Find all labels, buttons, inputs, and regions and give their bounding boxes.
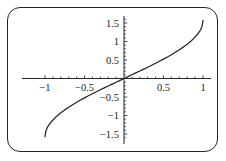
y-tick-label: −1 [108,110,119,121]
y-tick-label: 1.5 [106,18,119,29]
x-tick-label: 0.5 [157,82,170,93]
y-tick-label: −0.5 [100,92,119,103]
x-tick-label: 1 [200,82,205,93]
x-tick-label: −1 [39,82,50,93]
y-tick-label: −1.5 [100,129,119,140]
y-tick-label: 1 [114,36,119,47]
y-tick-label: 0.5 [106,55,119,66]
x-axis-tick-labels: −1−0.50.51 [39,82,205,93]
arcsin-plot: −1−0.50.51 −1.5−1−0.50.511.5 [0,0,226,161]
axes-group [22,16,211,144]
x-tick-label: −0.5 [75,82,94,93]
